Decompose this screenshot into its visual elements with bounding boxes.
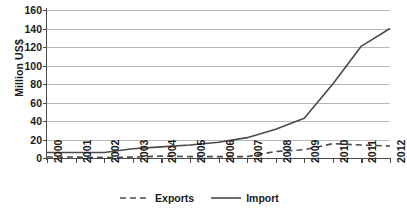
- x-axis-tick-mark: [390, 159, 391, 163]
- legend: ExportsImport: [0, 193, 399, 204]
- x-axis-tick-label: 2003: [138, 117, 150, 163]
- x-axis-tick-label: 2001: [81, 117, 93, 163]
- dashed-line-swatch: [120, 194, 150, 202]
- y-axis-tick-label: 60: [2, 98, 42, 109]
- x-axis-tick-mark: [361, 159, 362, 163]
- x-axis-tick-label: 2007: [252, 117, 264, 163]
- y-axis-tick-label: 80: [2, 79, 42, 90]
- x-axis-tick-mark: [276, 159, 277, 163]
- x-axis-tick-mark: [104, 159, 105, 163]
- legend-entry-exports[interactable]: Exports: [120, 193, 194, 204]
- x-axis-tick-mark: [47, 159, 48, 163]
- legend-label: Import: [246, 193, 279, 204]
- x-axis-tick-mark: [133, 159, 134, 163]
- y-axis-tick-label: 140: [2, 24, 42, 35]
- y-axis-tick-labels: 020406080100120140160: [0, 0, 42, 219]
- x-axis-tick-label: 2005: [195, 117, 207, 163]
- x-axis-tick-label: 2011: [366, 117, 378, 163]
- legend-label: Exports: [155, 193, 194, 204]
- solid-line-swatch: [211, 194, 241, 202]
- y-axis-tick-label: 120: [2, 42, 42, 53]
- x-axis-tick-mark: [190, 159, 191, 163]
- y-axis-tick-label: 40: [2, 116, 42, 127]
- x-axis-tick-mark: [304, 159, 305, 163]
- x-axis-tick-label: 2012: [395, 117, 407, 163]
- x-axis-tick-mark: [161, 159, 162, 163]
- x-axis-tick-label: 2006: [224, 117, 236, 163]
- legend-entry-import[interactable]: Import: [211, 193, 279, 204]
- x-axis-tick-mark: [76, 159, 77, 163]
- x-axis-tick-label: 2010: [338, 117, 350, 163]
- x-axis-tick-label: 2004: [166, 117, 178, 163]
- x-axis-tick-mark: [219, 159, 220, 163]
- y-axis-tick-label: 20: [2, 135, 42, 146]
- y-axis-tick-label: 160: [2, 5, 42, 16]
- y-axis-tick-label: 100: [2, 61, 42, 72]
- x-axis-tick-mark: [333, 159, 334, 163]
- x-axis-tick-label: 2000: [52, 117, 64, 163]
- x-axis-tick-label: 2008: [281, 117, 293, 163]
- x-axis-tick-mark: [247, 159, 248, 163]
- y-axis-tick-label: 0: [2, 153, 42, 164]
- x-axis-tick-label: 2002: [109, 117, 121, 163]
- x-axis-tick-label: 2009: [309, 117, 321, 163]
